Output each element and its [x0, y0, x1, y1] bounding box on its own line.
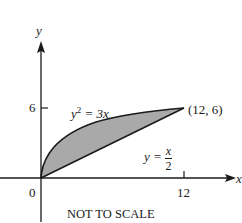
caption-not-to-scale: NOT TO SCALE	[67, 208, 155, 221]
lower-curve-label: y =x2	[144, 145, 172, 172]
x-tick-label-12: 12	[177, 186, 190, 199]
origin-label: 0	[29, 186, 36, 199]
fraction-numerator: x	[165, 145, 172, 159]
lower-curve-lhs: y =	[144, 149, 162, 164]
x-axis-label: x	[236, 172, 242, 185]
upper-curve-rhs: = 3x	[85, 106, 109, 121]
diagram-region-between-curves: y 6 y2 = 3x (12, 6) y =x2 x 0 12 NOT TO …	[0, 0, 242, 223]
y-tick-label-6: 6	[29, 101, 36, 114]
upper-curve-exponent: 2	[77, 105, 82, 115]
fraction-denominator: 2	[165, 159, 172, 172]
y-axis-label: y	[36, 24, 42, 37]
fraction: x2	[165, 145, 172, 172]
upper-curve-label: y2 = 3x	[71, 107, 109, 120]
intersection-point-label: (12, 6)	[188, 103, 223, 116]
